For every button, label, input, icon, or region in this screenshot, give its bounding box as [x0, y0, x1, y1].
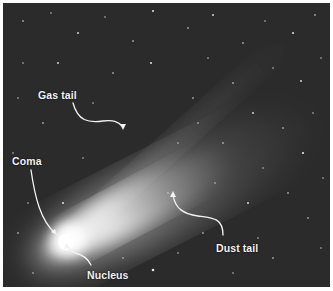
coma-label: Coma — [12, 155, 42, 167]
gas-tail-label: Gas tail — [38, 89, 77, 101]
comet-image — [3, 3, 330, 287]
nucleus-label: Nucleus — [87, 269, 129, 281]
comet-photo: Gas tail Coma Nucleus Dust tail — [3, 3, 330, 287]
dust-tail-label: Dust tail — [216, 242, 258, 254]
